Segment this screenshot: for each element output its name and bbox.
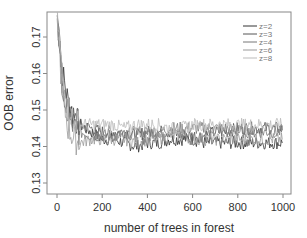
legend: z=2z=3z=4z=6z=8 bbox=[243, 22, 273, 63]
x-tick-label: 1000 bbox=[271, 201, 295, 213]
oob-error-chart: 0.130.140.150.160.17 02004006008001000 n… bbox=[0, 0, 307, 238]
plot-frame bbox=[47, 12, 291, 194]
x-tick-label: 800 bbox=[229, 201, 247, 213]
y-tick-label: 0.13 bbox=[30, 172, 42, 193]
x-tick-label: 400 bbox=[138, 201, 156, 213]
y-tick-label: 0.17 bbox=[30, 26, 42, 47]
y-tick-label: 0.14 bbox=[30, 136, 42, 157]
x-axis-title: number of trees in forest bbox=[104, 221, 235, 235]
series-lines bbox=[57, 2, 282, 155]
y-tick-label: 0.15 bbox=[30, 99, 42, 120]
x-tick-label: 200 bbox=[93, 201, 111, 213]
x-tick-label: 600 bbox=[183, 201, 201, 213]
y-axis-title: OOB error bbox=[2, 75, 16, 130]
x-axis: 02004006008001000 bbox=[54, 194, 295, 213]
x-tick-label: 0 bbox=[54, 201, 60, 213]
y-axis: 0.130.140.150.160.17 bbox=[30, 26, 47, 193]
y-tick-label: 0.16 bbox=[30, 63, 42, 84]
series-line-z8 bbox=[57, 2, 282, 134]
legend-label: z=8 bbox=[259, 54, 273, 63]
